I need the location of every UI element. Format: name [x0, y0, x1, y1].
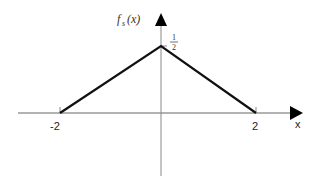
tick-label-neg2: -2	[50, 120, 60, 132]
y-axis-label-arg: (x)	[127, 12, 140, 26]
peak-label-denominator: 2	[172, 43, 176, 52]
y-axis-label-sub: s	[122, 19, 125, 28]
y-axis-arrow-icon	[155, 13, 167, 26]
x-axis-label: x	[295, 118, 301, 130]
tick-label-pos2: 2	[252, 120, 258, 132]
density-line	[60, 46, 256, 113]
peak-label-numerator: 1	[172, 33, 176, 42]
triangular-density-plot: -2 2 x f s (x) 1 2	[0, 0, 319, 183]
